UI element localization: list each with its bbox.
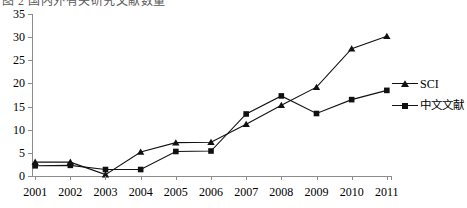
y-axis-label: 10: [13, 124, 25, 136]
triangle-marker-glyph: [399, 78, 411, 90]
series-line: [35, 36, 387, 174]
legend: SCI中文文献: [392, 73, 467, 117]
x-axis-tick: [35, 176, 36, 180]
y-axis-label: 15: [13, 101, 25, 113]
square-marker: [243, 111, 249, 117]
x-axis-label: 2002: [58, 186, 82, 198]
x-axis-tick: [211, 176, 212, 180]
plot-area: 05101520253035: [32, 14, 390, 176]
x-axis-tick: [141, 176, 142, 180]
x-axis-label: 2007: [234, 186, 258, 198]
y-axis-label: 20: [13, 77, 25, 89]
x-axis-label: 2004: [129, 186, 153, 198]
y-axis-label: 5: [19, 147, 25, 159]
legend-marker-shape: [402, 103, 408, 109]
line-chart: 图 2 国内外有关研究文献数量 05101520253035 200120022…: [0, 0, 467, 208]
triangle-marker: [383, 33, 390, 39]
x-axis-tick: [246, 176, 247, 180]
legend-label: SCI: [418, 78, 439, 90]
x-axis-label: 2011: [375, 186, 399, 198]
x-axis-label: 2010: [340, 186, 364, 198]
square-marker: [279, 93, 285, 99]
x-axis-tick: [281, 176, 282, 180]
square-marker: [103, 167, 109, 173]
square-marker: [208, 148, 214, 154]
x-axis-label: 2001: [23, 186, 47, 198]
x-axis-tick: [176, 176, 177, 180]
y-axis-label: 30: [13, 31, 25, 43]
x-axis-tick: [352, 176, 353, 180]
square-marker: [314, 111, 320, 117]
x-axis-label: 2008: [269, 186, 293, 198]
x-axis-label: 2006: [199, 186, 223, 198]
y-axis-label: 25: [13, 54, 25, 66]
y-axis-label: 35: [13, 8, 25, 20]
square-marker-glyph: [399, 100, 411, 112]
x-axis-ticks: 2001200220032004200520062007200820092010…: [32, 176, 391, 206]
x-axis-label: 2009: [305, 186, 329, 198]
series-layer: [32, 14, 390, 176]
x-axis-tick: [70, 176, 71, 180]
legend-item-sci[interactable]: SCI: [392, 73, 467, 95]
legend-label: 中文文献: [418, 100, 464, 112]
y-axis-label: 0: [19, 170, 25, 182]
cut-off-caption: 图 2 国内外有关研究文献数量: [0, 0, 467, 7]
square-marker: [138, 167, 144, 173]
x-axis-tick: [387, 176, 388, 180]
triangle-marker: [242, 121, 249, 127]
legend-marker-shape: [401, 80, 409, 87]
cut-off-caption-text: 图 2 国内外有关研究文献数量: [2, 0, 166, 7]
square-marker: [392, 100, 418, 112]
x-axis-label: 2003: [93, 186, 117, 198]
legend-item-chinese-literature[interactable]: 中文文献: [392, 95, 467, 117]
square-marker: [32, 163, 38, 169]
series-line: [35, 90, 387, 169]
triangle-marker: [392, 78, 418, 90]
x-axis-tick: [391, 176, 392, 180]
triangle-marker: [278, 102, 285, 108]
square-marker: [68, 163, 74, 169]
x-axis-tick: [105, 176, 106, 180]
x-axis-tick: [317, 176, 318, 180]
square-marker: [384, 88, 390, 94]
series-chinese-literature: [32, 88, 389, 173]
square-marker: [173, 149, 179, 155]
x-axis-label: 2005: [164, 186, 188, 198]
square-marker: [349, 97, 355, 103]
